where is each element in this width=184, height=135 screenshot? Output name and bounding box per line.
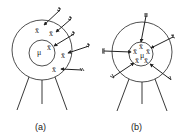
sample-mean-b5: x̄ xyxy=(144,56,148,65)
panel-a-label: (a) xyxy=(35,122,46,132)
arrows-a xyxy=(44,10,89,70)
sample-mean-a2: x̄ xyxy=(49,29,53,38)
target-a-outer-ring xyxy=(12,20,72,80)
target-b: x̄ x̄ x̄ μ x̄ x̄ (b) xyxy=(102,13,175,132)
sample-mean-a5: x̄ xyxy=(52,65,56,74)
arrow-b2 xyxy=(151,37,173,48)
diagram-canvas: x̄ x̄ μ x̄ x̄ x̄ (a) x̄ xyxy=(0,0,184,135)
arrow-b4 xyxy=(113,63,134,77)
sample-mean-a3: x̄ xyxy=(47,43,51,52)
panel-b-label: (b) xyxy=(131,122,142,132)
arrow-a3 xyxy=(54,34,74,46)
sample-mean-b3: x̄ xyxy=(146,47,150,56)
sample-mean-b4: x̄ xyxy=(135,56,139,65)
sample-mean-b2: x̄ xyxy=(133,47,137,56)
target-b-stand xyxy=(117,79,167,111)
arrow-b3 xyxy=(104,51,131,52)
target-a-bullseye xyxy=(29,40,55,66)
fletching-a xyxy=(57,7,90,71)
arrow-a2 xyxy=(56,19,71,32)
sample-mean-a4: x̄ xyxy=(61,51,65,60)
sample-mean-a1: x̄ xyxy=(35,26,39,35)
target-a: x̄ x̄ μ x̄ x̄ x̄ (a) xyxy=(12,7,90,132)
arrow-b1 xyxy=(141,16,146,42)
arrow-a1 xyxy=(44,10,60,25)
arrow-a4 xyxy=(68,46,89,53)
arrow-b5 xyxy=(150,64,170,79)
target-a-stand xyxy=(17,77,67,110)
sample-mean-b1: x̄ xyxy=(139,42,143,51)
true-mean-a: μ xyxy=(37,48,41,57)
